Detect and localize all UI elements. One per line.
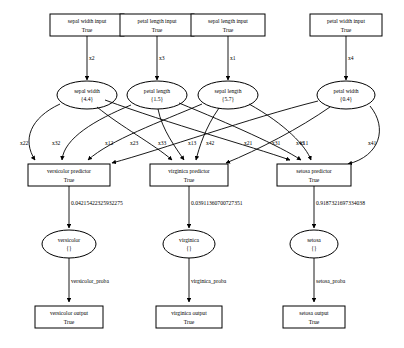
class-label: setosa xyxy=(307,237,321,243)
edge-label: x22 xyxy=(20,140,29,146)
feature-label: petal width xyxy=(333,88,358,94)
input-label: petal width input xyxy=(327,18,365,24)
node-ellipse xyxy=(127,81,187,109)
edge-label: versicolor_proba xyxy=(71,278,109,284)
edge-weight-x12: x12 xyxy=(88,104,202,160)
feature-label: petal length xyxy=(144,88,170,94)
node-ellipse xyxy=(290,230,338,258)
input-sub: True xyxy=(341,27,352,33)
node-ellipse xyxy=(42,230,96,258)
input-sub: True xyxy=(152,27,163,33)
edge-label: x21 xyxy=(244,140,253,146)
edge-label: x4 xyxy=(348,55,354,61)
input-node-sepal-width[interactable]: sepal width input True xyxy=(50,14,124,36)
feature-node-petal-length[interactable]: petal length {1.5} xyxy=(127,81,187,109)
edge-weight-x42: x42 xyxy=(112,101,318,163)
input-sub: True xyxy=(223,27,234,33)
edge-input-to-feature-x3: x3 xyxy=(157,36,165,80)
feature-value: {0.4} xyxy=(340,96,353,103)
edge-probability-setosa: 0.9187321697334038 xyxy=(314,186,365,228)
feature-value: {1.5} xyxy=(151,96,164,103)
predictor-label: setosa predictor xyxy=(296,168,331,174)
predictor-sub: True xyxy=(64,177,75,183)
edge-probability-virginica: 0.03911360700727351 xyxy=(189,186,243,228)
probability-value: 0.9187321697334038 xyxy=(316,200,365,206)
output-sub: True xyxy=(64,319,75,325)
input-label: sepal length input xyxy=(208,18,248,24)
input-label: petal length input xyxy=(137,18,177,24)
class-label: versicolor xyxy=(58,237,81,243)
node-ellipse xyxy=(57,81,117,109)
edge-proba-versicolor: versicolor_proba xyxy=(69,258,109,302)
edge-label: x41 xyxy=(368,140,377,146)
class-value: {} xyxy=(66,245,72,252)
edge-input-to-feature-x1: x1 xyxy=(228,36,236,80)
feature-node-sepal-width[interactable]: sepal width {4.4} xyxy=(57,81,117,109)
edge-label: x42 xyxy=(206,140,215,146)
pipeline-diagram: sepal width input True petal length inpu… xyxy=(0,0,404,348)
predictor-label: virginica predictor xyxy=(168,168,210,174)
predictor-label: versicolor predictor xyxy=(47,168,91,174)
node-ellipse xyxy=(163,230,215,258)
class-label: virginica xyxy=(179,237,199,243)
edge-weight-x43: x43 xyxy=(226,107,330,163)
edge-label: x23 xyxy=(130,140,139,146)
output-node-virginica[interactable]: virginica output True xyxy=(156,306,222,328)
output-node-versicolor[interactable]: versicolor output True xyxy=(35,306,103,328)
input-node-sepal-length[interactable]: sepal length input True xyxy=(191,14,265,36)
edge-label: x1 xyxy=(230,55,236,61)
probability-value: 0.03911360700727351 xyxy=(191,200,243,206)
edge-label: virginica_proba xyxy=(191,278,227,284)
output-label: setosa output xyxy=(299,310,329,316)
edge-label: x2 xyxy=(89,55,95,61)
class-value: {} xyxy=(186,245,192,252)
edge-label: x3 xyxy=(159,55,165,61)
output-node-setosa[interactable]: setosa output True xyxy=(283,306,345,328)
output-sub: True xyxy=(309,319,320,325)
predictor-sub: True xyxy=(309,177,320,183)
feature-label: sepal width xyxy=(74,88,100,94)
node-ellipse xyxy=(317,81,375,109)
feature-node-sepal-length[interactable]: sepal length {5.7} xyxy=(198,81,258,109)
probability-value: 0.04215422325932275 xyxy=(71,200,123,206)
input-node-petal-width[interactable]: petal width input True xyxy=(310,14,382,36)
edge-weight-x13: x13 xyxy=(188,108,219,160)
feature-value: {5.7} xyxy=(222,96,235,103)
edge-weight-x11: x11 xyxy=(249,104,311,160)
edge-label: x11 xyxy=(300,140,308,146)
class-value: {} xyxy=(311,245,317,252)
input-label: sepal width input xyxy=(68,18,107,24)
edge-weight-x31: x31 xyxy=(179,103,301,160)
predictor-node-versicolor[interactable]: versicolor predictor True xyxy=(28,164,110,186)
edge-weight-x32: x32 xyxy=(52,105,131,160)
edge-weight-x41: x41 xyxy=(348,106,379,164)
feature-node-petal-width[interactable]: petal width {0.4} xyxy=(317,81,375,109)
input-sub: True xyxy=(82,27,93,33)
edge-label: setosa_proba xyxy=(316,278,346,284)
edge-proba-setosa: setosa_proba xyxy=(314,258,346,302)
class-node-versicolor[interactable]: versicolor {} xyxy=(42,230,96,258)
output-label: virginica output xyxy=(171,310,207,316)
feature-label: sepal length xyxy=(215,88,242,94)
class-node-virginica[interactable]: virginica {} xyxy=(163,230,215,258)
output-label: versicolor output xyxy=(50,310,89,316)
edge-weight-x21: x21 xyxy=(105,100,290,160)
predictor-sub: True xyxy=(184,177,195,183)
output-sub: True xyxy=(184,319,195,325)
edge-label: x33 xyxy=(158,140,167,146)
feature-value: {4.4} xyxy=(81,96,94,103)
edge-input-to-feature-x4: x4 xyxy=(346,36,354,80)
edge-label: x31 xyxy=(272,140,281,146)
edge-label: x12 xyxy=(105,140,114,146)
edge-proba-virginica: virginica_proba xyxy=(189,258,227,302)
input-node-petal-length[interactable]: petal length input True xyxy=(120,14,194,36)
edge-input-to-feature-x2: x2 xyxy=(87,36,95,80)
node-ellipse xyxy=(198,81,258,109)
edge-probability-versicolor: 0.04215422325932275 xyxy=(69,186,123,228)
edge-weight-x22: x22 xyxy=(20,104,60,160)
predictor-node-setosa[interactable]: setosa predictor True xyxy=(277,164,351,186)
class-node-setosa[interactable]: setosa {} xyxy=(290,230,338,258)
predictor-node-virginica[interactable]: virginica predictor True xyxy=(150,164,228,186)
edge-label: x13 xyxy=(188,140,197,146)
edge-label: x32 xyxy=(52,140,61,146)
